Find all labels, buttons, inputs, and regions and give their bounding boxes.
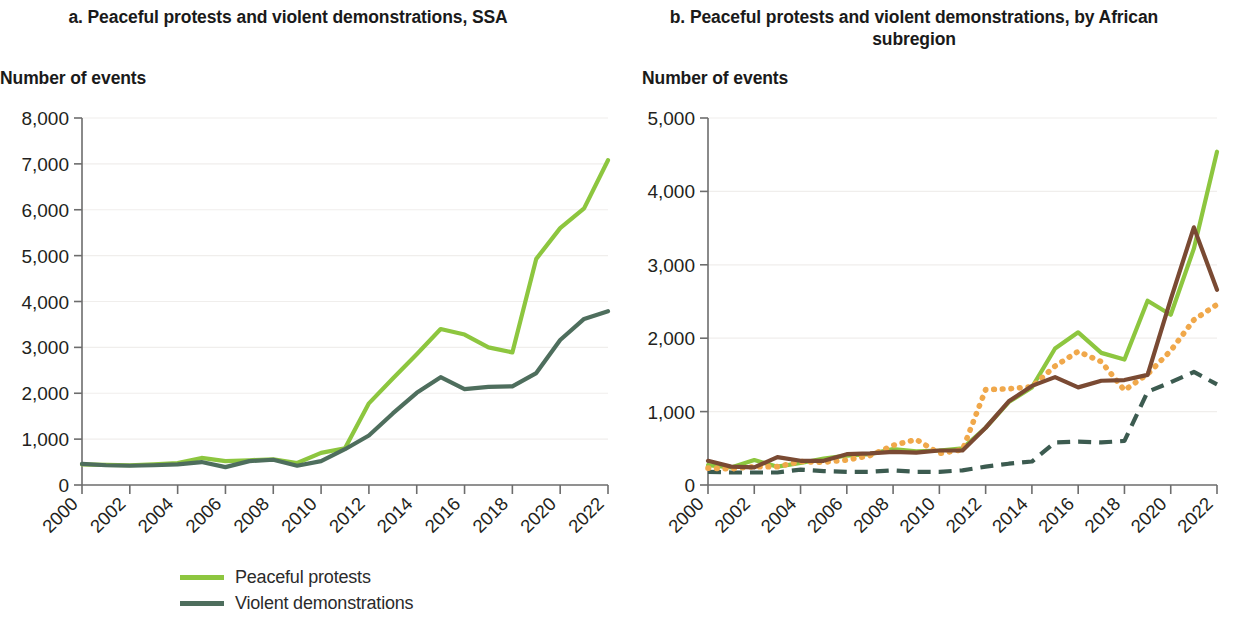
legend-swatch-icon xyxy=(180,575,224,580)
x-tick-label: 2022 xyxy=(564,493,608,537)
y-tick-label: 1,000 xyxy=(21,429,69,450)
x-tick-label: 2000 xyxy=(38,493,82,537)
x-tick-label: 2006 xyxy=(181,493,225,537)
x-tick-label: 2016 xyxy=(420,493,464,537)
panel-a: a. Peaceful protests and violent demonst… xyxy=(0,0,620,620)
legend-swatch-icon xyxy=(180,601,224,606)
series-line-eastern-africa xyxy=(708,152,1217,468)
y-tick-label: 1,000 xyxy=(647,402,695,423)
y-tick-label: 6,000 xyxy=(21,200,69,221)
legend-item-violent-demonstrations[interactable]: Violent demonstrations xyxy=(180,594,413,612)
y-tick-label: 2,000 xyxy=(647,328,695,349)
figure-root: a. Peaceful protests and violent demonst… xyxy=(0,0,1233,620)
legend-item-peaceful-protests[interactable]: Peaceful protests xyxy=(180,568,371,586)
x-tick-label: 2020 xyxy=(1127,493,1171,537)
y-tick-label: 8,000 xyxy=(21,108,69,129)
y-tick-label: 4,000 xyxy=(647,181,695,202)
x-tick-label: 2016 xyxy=(1034,493,1078,537)
legend-label: Peaceful protests xyxy=(235,568,371,586)
y-tick-label: 4,000 xyxy=(21,292,69,313)
series-line-violent-demonstrations xyxy=(82,311,608,467)
x-tick-label: 2020 xyxy=(516,493,560,537)
y-tick-label: 5,000 xyxy=(647,108,695,129)
x-tick-label: 2022 xyxy=(1173,493,1217,537)
x-tick-label: 2002 xyxy=(86,493,130,537)
x-tick-label: 2002 xyxy=(710,493,754,537)
x-tick-label: 2014 xyxy=(988,493,1032,537)
series-line-peaceful-protests xyxy=(82,160,608,465)
legend-row: Violent demonstrations xyxy=(180,590,413,616)
x-tick-label: 2004 xyxy=(134,493,178,537)
y-tick-label: 0 xyxy=(684,475,695,496)
panel-b: b. Peaceful protests and violent demonst… xyxy=(620,0,1233,620)
panel-b-plot: 01,0002,0003,0004,0005,00020002002200420… xyxy=(620,0,1233,560)
x-tick-label: 2012 xyxy=(942,493,986,537)
x-tick-label: 2010 xyxy=(895,493,939,537)
x-tick-label: 2004 xyxy=(756,493,800,537)
x-tick-label: 2018 xyxy=(1080,493,1124,537)
y-tick-label: 0 xyxy=(58,475,69,496)
legend-label: Violent demonstrations xyxy=(235,594,413,612)
series-line-western-africa xyxy=(708,227,1217,467)
x-tick-label: 2014 xyxy=(373,493,417,537)
x-tick-label: 2008 xyxy=(849,493,893,537)
y-tick-label: 3,000 xyxy=(647,255,695,276)
x-tick-label: 2018 xyxy=(468,493,512,537)
x-tick-label: 2008 xyxy=(229,493,273,537)
x-tick-label: 2012 xyxy=(325,493,369,537)
y-tick-label: 7,000 xyxy=(21,154,69,175)
x-tick-label: 2000 xyxy=(664,493,708,537)
x-tick-label: 2010 xyxy=(277,493,321,537)
y-tick-label: 2,000 xyxy=(21,383,69,404)
panel-a-legend: Peaceful protestsViolent demonstrations xyxy=(180,564,413,616)
legend-row: Peaceful protests xyxy=(180,564,413,590)
y-tick-label: 5,000 xyxy=(21,246,69,267)
y-tick-label: 3,000 xyxy=(21,337,69,358)
series-line-southern-africa xyxy=(708,304,1217,468)
panel-a-plot: 01,0002,0003,0004,0005,0006,0007,0008,00… xyxy=(0,0,620,560)
x-tick-label: 2006 xyxy=(803,493,847,537)
